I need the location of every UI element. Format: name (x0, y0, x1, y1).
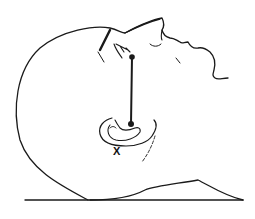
canthomeatal-line (131, 57, 132, 124)
nose-bridge-line (161, 30, 162, 40)
nasolabial-line (176, 58, 180, 63)
eyebrow-hatching (100, 30, 110, 50)
eyebrow-detail (98, 52, 104, 62)
head-outline-drawing (0, 0, 255, 219)
skull-contour (16, 19, 160, 200)
eye-point-marker (129, 54, 135, 60)
ear-point-marker (128, 121, 134, 127)
eye-icon (114, 44, 130, 58)
ear-inner-contour (108, 120, 140, 141)
face-profile (125, 18, 228, 79)
shoulder-contour (90, 180, 243, 200)
ear-canal-curve (110, 127, 116, 129)
x-marker-label: X (113, 146, 120, 157)
eyebrow-arc (150, 44, 161, 46)
